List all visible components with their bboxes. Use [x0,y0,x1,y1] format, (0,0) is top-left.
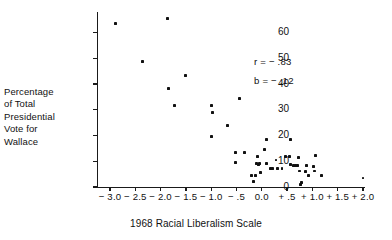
data-point [252,180,255,183]
y-tick-label-10: 10 [263,155,289,166]
data-point [320,174,323,177]
data-point [226,124,229,127]
y-axis-title-line-2: of Total [4,98,90,110]
y-axis-title: Percentage of Total Presidential Vote fo… [4,86,90,148]
data-point [211,111,214,114]
data-point [271,167,274,170]
y-tick-20 [93,135,97,136]
data-point [254,174,257,177]
y-tick-label-60: 60 [263,26,289,37]
y-axis-title-line-3: Presidential [4,111,90,123]
data-point [166,17,169,20]
x-tick-label-2: + 2.0 [341,191,385,202]
data-point [297,156,300,159]
y-tick-0 [93,186,97,187]
data-point [210,135,213,138]
data-point [167,87,170,90]
y-tick-label-20: 20 [263,129,289,140]
data-point [304,170,307,173]
data-point [250,174,253,177]
data-point [238,97,241,100]
y-axis-title-line-1: Percentage [4,86,90,98]
data-point [210,104,213,107]
scatter-plot-figure: Percentage of Total Presidential Vote fo… [0,0,392,240]
data-point [281,167,284,170]
x-axis-line [97,187,365,188]
data-point [234,161,237,164]
x-axis-title: 1968 Racial Liberalism Scale [0,218,392,229]
y-tick-label-30: 30 [263,103,289,114]
y-tick-40 [93,83,97,84]
data-point [184,74,187,77]
data-point [114,22,117,25]
plot-area [97,12,365,188]
data-point [234,151,237,154]
data-point [289,138,292,141]
y-tick-10 [93,161,97,162]
data-point [259,171,262,174]
data-point [258,162,261,165]
data-point [362,177,365,180]
data-point [307,174,310,177]
data-point [263,148,266,151]
data-point [299,183,302,186]
y-tick-label-50: 50 [263,52,289,63]
data-point [312,165,315,168]
y-axis-title-line-5: Wallace [4,136,90,148]
data-point [276,167,279,170]
data-point [296,164,299,167]
y-tick-50 [93,58,97,59]
y-tick-label-0: 0 [263,181,289,192]
data-point [305,164,308,167]
data-point [298,170,301,173]
y-tick-30 [93,109,97,110]
data-point [141,60,144,63]
data-point [314,154,317,157]
data-point [256,155,259,158]
y-axis-line [97,12,98,188]
data-point [313,170,316,173]
y-tick-label-40: 40 [263,78,289,89]
data-point [173,104,176,107]
y-axis-title-line-4: Vote for [4,123,90,135]
data-point [243,151,246,154]
y-tick-60 [93,32,97,33]
